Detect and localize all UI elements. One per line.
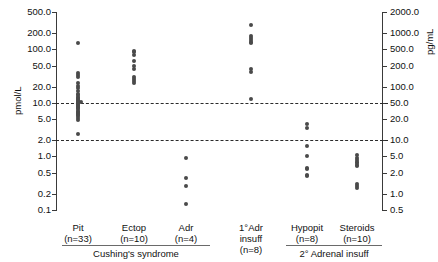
y-ticklabel-left: 0.5 xyxy=(4,168,51,178)
y-ticklabel-left: 1.0 xyxy=(4,151,51,161)
data-point xyxy=(184,176,188,180)
y-ticklabel-right: 10.0 xyxy=(390,135,438,145)
data-point xyxy=(132,67,136,71)
data-point xyxy=(184,202,188,206)
data-point xyxy=(305,144,309,148)
data-point xyxy=(305,174,309,178)
y-axis-right xyxy=(382,12,383,210)
y-tick-right xyxy=(382,210,387,211)
category-n-1adrinsuff: (n=8) xyxy=(211,244,291,255)
y-tick-left xyxy=(52,49,57,50)
y-ticklabel-left: 200.0 xyxy=(4,28,51,38)
data-point xyxy=(305,126,309,130)
y-ticklabel-right: 200.0 xyxy=(390,61,438,71)
data-point xyxy=(76,41,80,45)
y-tick-right xyxy=(382,119,387,120)
y-tick-left xyxy=(52,33,57,34)
data-point xyxy=(132,53,136,57)
y-tick-left xyxy=(52,87,57,88)
data-point xyxy=(184,156,188,160)
y-tick-left xyxy=(52,119,57,120)
y-ticklabel-left: 0.2 xyxy=(4,189,51,199)
data-point xyxy=(184,184,188,188)
y-tick-right xyxy=(382,66,387,67)
y-ticklabel-left: 2.0 xyxy=(4,135,51,145)
category-label-steroids: Steroids xyxy=(317,222,397,233)
y-tick-right xyxy=(382,33,387,34)
group-bracket-cushings xyxy=(62,245,210,246)
y-ticklabel-right: 5.0 xyxy=(390,151,438,161)
y-tick-left xyxy=(52,194,57,195)
right-axis-title: pg/mL xyxy=(424,28,435,54)
y-ticklabel-right: 100.0 xyxy=(390,82,438,92)
data-point xyxy=(249,41,253,45)
data-point xyxy=(305,154,309,158)
category-n-steroids: (n=10) xyxy=(317,233,397,244)
y-ticklabel-right: 0.5 xyxy=(390,205,438,215)
y-tick-right xyxy=(382,87,387,88)
data-point xyxy=(76,132,80,136)
y-tick-right xyxy=(382,12,387,13)
y-tick-left xyxy=(52,66,57,67)
group-label-cushings: Cushing's syndrome xyxy=(60,248,212,259)
y-tick-left xyxy=(52,210,57,211)
y-ticklabel-right: 1.0 xyxy=(390,189,438,199)
y-ticklabel-left: 0.1 xyxy=(4,205,51,215)
y-ticklabel-left: 500.0 xyxy=(4,7,51,17)
y-ticklabel-left: 5.0 xyxy=(4,114,51,124)
data-point xyxy=(355,186,359,190)
data-point xyxy=(76,118,80,122)
y-ticklabel-right: 50.0 xyxy=(390,98,438,108)
y-ticklabel-right: 20.0 xyxy=(390,114,438,124)
y-ticklabel-right: 2.0 xyxy=(390,168,438,178)
data-point xyxy=(355,164,359,168)
group-bracket-adrenal-insuff xyxy=(286,245,382,246)
reference-line-10 xyxy=(56,103,388,104)
data-point xyxy=(305,167,309,171)
y-tick-left xyxy=(52,173,57,174)
dot-plot-figure: 500.0200.0100.050.020.010.05.02.01.00.50… xyxy=(0,0,438,262)
y-tick-left xyxy=(52,156,57,157)
y-ticklabel-left: 50.0 xyxy=(4,61,51,71)
data-point xyxy=(249,70,253,74)
y-tick-right xyxy=(382,194,387,195)
group-label-adrenal-insuff: 2° Adrenal insuff xyxy=(280,248,388,259)
data-point xyxy=(249,97,253,101)
y-axis-left xyxy=(56,12,57,210)
data-point xyxy=(76,75,80,79)
reference-line-2 xyxy=(56,140,388,141)
data-point xyxy=(249,23,253,27)
data-point xyxy=(132,59,136,63)
y-tick-left xyxy=(52,12,57,13)
data-point xyxy=(132,81,136,85)
y-ticklabel-right: 2000.0 xyxy=(390,7,438,17)
y-ticklabel-left: 100.0 xyxy=(4,44,51,54)
y-tick-right xyxy=(382,156,387,157)
left-axis-title: pmol/L xyxy=(12,86,23,115)
y-tick-right xyxy=(382,49,387,50)
y-tick-right xyxy=(382,173,387,174)
